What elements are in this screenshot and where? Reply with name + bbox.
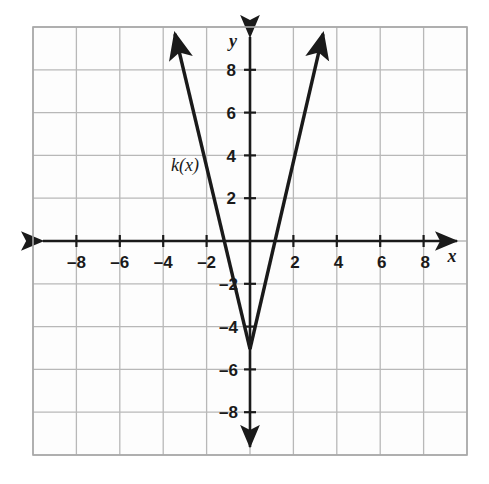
y-tick-label: –6 (219, 361, 238, 380)
y-tick-label: 4 (227, 147, 237, 166)
x-tick-label: –2 (197, 253, 216, 272)
x-tick-label: –8 (67, 253, 86, 272)
y-tick-label: –4 (219, 318, 238, 337)
coordinate-plane-svg: –8 –6 –4 –2 2 4 6 8 8 6 4 2 –2 –4 –6 –8 … (0, 0, 489, 484)
x-axis-label: x (447, 246, 457, 266)
y-tick-label: 6 (227, 104, 236, 123)
x-tick-label: 2 (290, 253, 299, 272)
y-tick-label: 8 (227, 61, 236, 80)
x-tick-label: 6 (377, 253, 386, 272)
graph-figure: –8 –6 –4 –2 2 4 6 8 8 6 4 2 –2 –4 –6 –8 … (0, 0, 489, 484)
x-tick-label: –6 (110, 253, 129, 272)
y-axis-label: y (227, 31, 238, 51)
y-tick-label: –8 (219, 403, 238, 422)
function-label-kx: k(x) (171, 155, 199, 176)
x-tick-label: 8 (420, 253, 429, 272)
x-tick-label: –4 (154, 253, 173, 272)
x-tick-label: 4 (334, 253, 344, 272)
y-tick-label: 2 (227, 189, 236, 208)
